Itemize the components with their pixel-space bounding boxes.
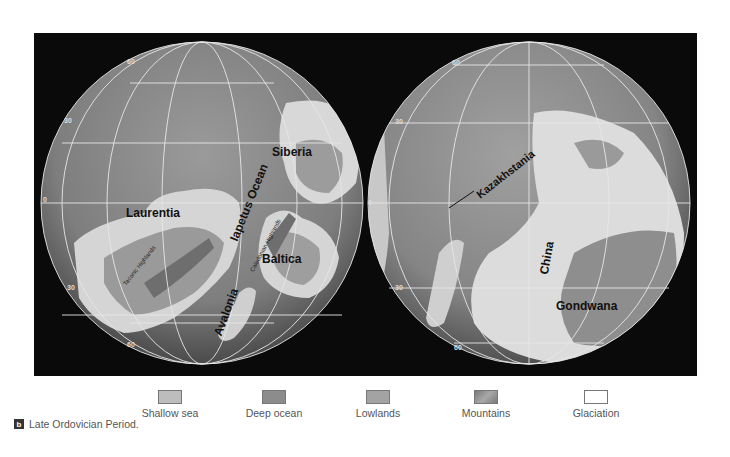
glaciation-swatch [584,390,608,404]
label-laurentia: Laurentia [126,206,180,220]
lat-label: 0 [43,196,47,203]
lat-label: 0 [368,199,372,206]
right-globe [368,42,690,364]
deep-ocean-swatch [262,390,286,404]
lat-label: 60 [452,59,460,66]
panel-letter-badge: b [14,419,24,429]
label-siberia: Siberia [272,145,312,159]
lat-label: 30 [395,118,403,125]
figure-caption: b Late Ordovician Period. [14,418,139,430]
lat-label: 60 [127,341,135,348]
label-baltica: Baltica [262,252,301,266]
legend-item-lowlands: Lowlands [333,390,423,419]
legend-item-shallow-sea: Shallow sea [125,390,215,419]
globes-graphic [34,33,697,376]
lowlands-swatch [366,390,390,404]
lat-label: 30 [64,117,72,124]
shallow-sea-swatch [158,390,182,404]
legend-item-glaciation: Glaciation [551,390,641,419]
legend-item-mountains: Mountains [441,390,531,419]
legend-item-deep-ocean: Deep ocean [229,390,319,419]
legend-label: Mountains [441,407,531,419]
legend-label: Deep ocean [229,407,319,419]
map-panel: 60 30 0 30 60 60 30 0 30 60 Siberia Laur… [34,33,697,376]
caption-text: Late Ordovician Period. [29,418,139,430]
lat-label: 30 [67,284,75,291]
left-globe [41,42,363,364]
mountains-swatch [474,390,498,404]
lat-label: 30 [395,284,403,291]
legend-label: Lowlands [333,407,423,419]
lat-label: 60 [127,58,135,65]
label-gondwana: Gondwana [556,299,617,313]
map-legend: Shallow sea Deep ocean Lowlands Mountain… [0,390,730,420]
lat-label: 60 [454,344,462,351]
legend-label: Glaciation [551,407,641,419]
